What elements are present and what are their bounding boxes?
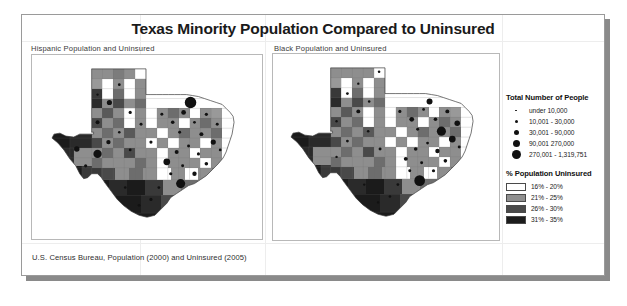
population-dot-icon-4 [506, 150, 526, 159]
population-dot-icon-1 [506, 120, 526, 123]
layout-guide-right [502, 15, 503, 275]
legend-item-population-2: 30,001 - 90,000 [506, 127, 604, 138]
legend-label-uninsured-0: 16% - 20% [528, 183, 563, 190]
layout-guide-top [22, 41, 604, 42]
panel-caption-hispanic: Hispanic Population and Uninsured [31, 44, 155, 53]
legend-title-percent-uninsured: % Population Uninsured [506, 169, 604, 178]
page-title: Texas Minority Population Compared to Un… [22, 20, 604, 38]
legend-item-uninsured-2: 26% - 30% [506, 203, 604, 214]
texas-county-map-hispanic [32, 55, 262, 239]
population-dot-icon-0 [506, 110, 526, 112]
population-dot-icon-3 [506, 140, 526, 147]
legend-item-uninsured-1: 21% - 25% [506, 192, 604, 203]
uninsured-swatch-icon-2 [506, 205, 528, 213]
legend-item-uninsured-3: 31% - 35% [506, 214, 604, 225]
slide-frame: Texas Minority Population Compared to Un… [21, 14, 605, 276]
legend-label-population-2: 30,001 - 90,000 [526, 129, 574, 136]
source-note: U.S. Census Bureau, Population (2000) an… [32, 253, 247, 262]
uninsured-swatch-icon-3 [506, 216, 528, 224]
legend-item-uninsured-0: 16% - 20% [506, 181, 604, 192]
legend-label-population-0: under 10,000 [526, 107, 567, 114]
legend-title-total-people: Total Number of People [506, 93, 604, 102]
map-legend: Total Number of People under 10,000 10,0… [506, 93, 604, 225]
uninsured-swatch-icon-0 [506, 183, 528, 191]
texas-county-map-black [273, 54, 499, 240]
legend-label-population-4: 270,001 - 1,319,751 [526, 151, 587, 158]
population-dot-icon-2 [506, 130, 526, 135]
layout-guide-bottom [22, 243, 604, 244]
legend-item-population-0: under 10,000 [506, 105, 604, 116]
legend-label-uninsured-3: 31% - 35% [528, 216, 563, 223]
legend-item-population-1: 10,001 - 30,000 [506, 116, 604, 127]
map-hispanic-population-uninsured[interactable] [31, 54, 263, 240]
panel-caption-black: Black Population and Uninsured [274, 44, 387, 53]
layout-guide-mid [265, 15, 266, 275]
legend-label-population-1: 10,001 - 30,000 [526, 118, 574, 125]
legend-label-uninsured-1: 21% - 25% [528, 194, 563, 201]
legend-label-population-3: 90,001 270,000 [526, 140, 574, 147]
uninsured-swatch-icon-1 [506, 194, 528, 202]
legend-item-population-4: 270,001 - 1,319,751 [506, 149, 604, 160]
legend-label-uninsured-2: 26% - 30% [528, 205, 563, 212]
map-black-population-uninsured[interactable] [272, 53, 500, 241]
legend-item-population-3: 90,001 270,000 [506, 138, 604, 149]
